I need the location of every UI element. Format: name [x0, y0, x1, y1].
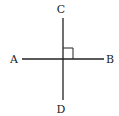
perpendicular-lines-diagram: C A B D	[0, 0, 119, 116]
label-b: B	[106, 53, 114, 66]
label-c: C	[57, 3, 65, 16]
right-angle-marker	[63, 48, 73, 59]
label-a: A	[9, 53, 19, 66]
label-d: D	[57, 103, 66, 116]
